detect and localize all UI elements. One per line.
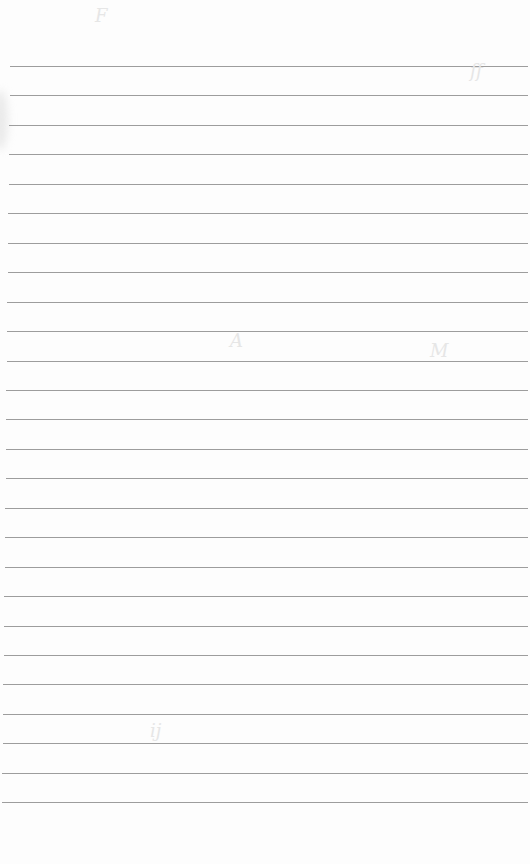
ruled-line [8,272,528,273]
ruled-line [4,596,528,597]
bleed-through-mark: M [430,340,448,361]
ruled-line [6,419,528,420]
ruled-line [7,302,528,303]
bleed-through-mark: F [95,5,108,26]
ruled-line [3,714,528,715]
ruled-line [10,66,528,67]
ruled-line [3,743,528,744]
ruled-line [6,478,528,479]
ruled-line [9,154,528,155]
ruled-line [4,626,528,627]
ruled-line [2,773,528,774]
ruled-line [6,390,528,391]
ruled-line [5,537,528,538]
ruled-line [5,508,528,509]
ruled-line [6,449,528,450]
ruled-line [7,361,528,362]
ruled-line [9,125,528,126]
ruled-line [7,331,528,332]
ruled-line [3,684,528,685]
bleed-through-mark: A [230,330,243,351]
ruled-line [9,184,528,185]
ruled-line [5,567,528,568]
bleed-through-mark: ij [150,720,161,741]
ruled-line [10,95,528,96]
bleed-through-mark: ff [470,60,483,81]
ruled-paper-page: F ff A M ij [0,0,530,864]
ruled-line [8,213,528,214]
page-edge-shadow [0,90,8,150]
ruled-line [8,243,528,244]
ruled-line [2,802,528,803]
ruled-line [4,655,528,656]
